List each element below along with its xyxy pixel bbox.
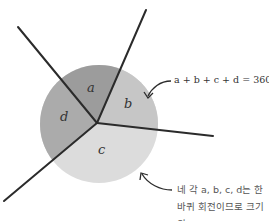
equation-text: a + b + c + d = 360° <box>174 74 269 85</box>
label-c: c <box>98 142 105 157</box>
label-b: b <box>124 96 132 111</box>
region-d <box>0 20 97 210</box>
note-line-2: 바퀴 회전이므로 크기의 <box>177 198 269 221</box>
label-a: a <box>87 80 95 95</box>
note-text: 네 각 a, b, c, d는 한 바퀴 회전이므로 크기의 합은 360°이다… <box>177 181 269 221</box>
region-b <box>97 0 269 140</box>
arrow-note <box>142 174 172 190</box>
note-line-1: 네 각 a, b, c, d는 한 <box>177 181 269 198</box>
label-d: d <box>60 109 68 124</box>
